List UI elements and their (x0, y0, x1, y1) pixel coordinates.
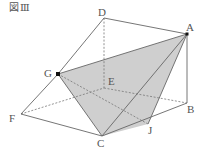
label-E: E (108, 76, 115, 87)
cube-diagram: 図Ⅲ D A G E F C J B (0, 0, 204, 148)
label-A: A (186, 22, 194, 33)
edge-DA (104, 18, 187, 34)
label-J: J (148, 125, 152, 136)
vertex-G-dot (56, 72, 60, 76)
label-G: G (44, 68, 52, 79)
label-B: B (187, 104, 194, 115)
diagram-canvas (0, 0, 204, 148)
figure-caption: 図Ⅲ (9, 0, 31, 14)
label-F: F (9, 113, 15, 124)
label-C: C (97, 138, 104, 148)
label-D: D (98, 7, 106, 18)
